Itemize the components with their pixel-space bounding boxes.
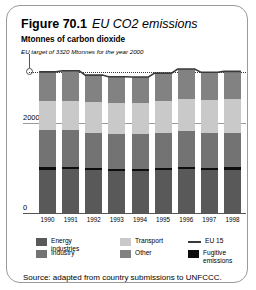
figure-number: Figure 70.1	[21, 17, 87, 31]
bar-segment-transport	[85, 102, 102, 132]
figure-box: Figure 70.1EU CO2 emissions Mtonnes of c…	[6, 5, 248, 283]
ytick-label-0: 0	[23, 203, 27, 212]
bar-segment-energy-industries	[132, 171, 149, 213]
bar-segment-other	[155, 73, 172, 101]
bar-segment-other	[85, 75, 102, 102]
legend-swatch-icon	[120, 238, 131, 246]
figure-title: Figure 70.1EU CO2 emissions	[21, 14, 198, 32]
bar-segment-energy-industries	[178, 169, 195, 213]
plot-area	[36, 64, 244, 213]
bar-segment-energy-industries	[224, 170, 241, 213]
bar-segment-transport	[39, 101, 56, 130]
bar-segment-transport	[62, 101, 79, 131]
legend-swatch-icon	[36, 238, 47, 246]
bar-1992	[85, 75, 102, 213]
bar-segment-industry	[85, 133, 102, 168]
x-axis-label-1996: 1996	[175, 216, 198, 223]
bar-segment-energy-industries	[155, 170, 172, 213]
bar-segment-industry	[39, 130, 56, 167]
bar-segment-energy-industries	[62, 169, 79, 213]
legend-swatch-icon	[188, 250, 199, 258]
bar-1996	[178, 69, 195, 213]
eu-target-stem	[29, 54, 30, 68]
legend-item-eu-15[interactable]: EU 15	[188, 237, 223, 245]
bar-segment-other	[132, 77, 149, 102]
legend-item-other[interactable]: Other	[120, 249, 152, 258]
bar-1994	[132, 77, 149, 213]
chart-axis-title: Mtonnes of carbon dioxide	[21, 35, 125, 44]
legend-label: EU 15	[205, 237, 223, 245]
bar-segment-industry	[155, 133, 172, 168]
bar-segment-industry	[132, 134, 149, 169]
bar-segment-other	[201, 72, 218, 99]
legend-line-icon	[188, 241, 201, 243]
bar-segment-other	[224, 71, 241, 98]
bar-segment-transport	[132, 103, 149, 134]
x-axis-label-1990: 1990	[36, 216, 59, 223]
eu-target-note: EU target of 3320 Mtonnes for the year 2…	[21, 48, 143, 55]
legend-swatch-icon	[120, 250, 131, 258]
bar-segment-industry	[201, 133, 218, 168]
bar-segment-transport	[201, 100, 218, 133]
bar-segment-energy-industries	[39, 170, 56, 213]
bar-segment-other	[39, 72, 56, 101]
legend-label: Fugitive emissions	[203, 249, 237, 264]
bar-1993	[108, 77, 125, 213]
bar-1991	[62, 71, 79, 213]
bar-segment-energy-industries	[85, 170, 102, 213]
x-axis-label-1998: 1998	[221, 216, 244, 223]
bar-segment-transport	[224, 99, 241, 133]
bar-1995	[155, 73, 172, 213]
source-note: Source: adapted from country submissions…	[23, 273, 222, 282]
x-axis-label-1993: 1993	[105, 216, 128, 223]
bar-segment-other	[62, 71, 79, 101]
chart-legend: Energy industriesIndustryTransportOtherE…	[36, 237, 244, 267]
x-axis-label-1991: 1991	[59, 216, 82, 223]
bar-segment-industry	[224, 133, 241, 168]
bar-1990	[39, 72, 56, 213]
bar-segment-industry	[108, 134, 125, 168]
legend-label: Other	[135, 249, 152, 257]
bar-segment-transport	[178, 99, 195, 131]
legend-label: Transport	[135, 237, 163, 245]
x-axis-label-1995: 1995	[152, 216, 175, 223]
bar-segment-energy-industries	[108, 171, 125, 213]
x-axis-label-1992: 1992	[82, 216, 105, 223]
bar-segment-industry	[62, 130, 79, 166]
legend-item-fugitive-emissions[interactable]: Fugitive emissions	[188, 249, 237, 264]
bar-segment-transport	[108, 103, 125, 134]
bar-segment-transport	[155, 101, 172, 133]
legend-label: Industry	[51, 249, 74, 257]
bar-segment-other	[108, 77, 125, 103]
bar-segment-industry	[178, 131, 195, 167]
legend-item-industry[interactable]: Industry	[36, 249, 74, 258]
figure-title-text: EU CO2 emissions	[92, 17, 198, 31]
bar-1998	[224, 71, 241, 213]
legend-item-transport[interactable]: Transport	[120, 237, 163, 246]
axis-baseline	[23, 213, 246, 214]
x-axis-labels: 199019911992199319941995199619971998	[36, 216, 244, 228]
bar-segment-other	[178, 69, 195, 99]
x-axis-label-1997: 1997	[198, 216, 221, 223]
legend-swatch-icon	[36, 250, 47, 258]
bar-1997	[201, 72, 218, 213]
x-axis-label-1994: 1994	[129, 216, 152, 223]
bar-segment-energy-industries	[201, 170, 218, 213]
